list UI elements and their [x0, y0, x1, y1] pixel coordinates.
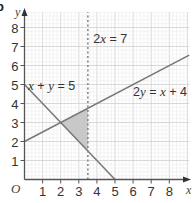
x-tick-label: 2 [57, 184, 64, 199]
line-x-y-5 [25, 85, 116, 180]
x-axis-label: x [185, 183, 192, 197]
question-label: b [0, 0, 4, 14]
y-tick-label: 5 [11, 78, 18, 93]
x-tick-label: 3 [75, 184, 82, 199]
x-tick-label: 5 [111, 184, 118, 199]
x-tick-label: 1 [39, 184, 46, 199]
coordinate-graph: 1234567812345678 x + y = 52y = x + 42x =… [0, 0, 194, 203]
x-tick-label: 4 [93, 184, 100, 199]
x-tick-label: 6 [129, 184, 136, 199]
y-tick-label: 6 [11, 59, 18, 74]
y-tick-label: 3 [11, 116, 18, 131]
y-tick-label: 4 [11, 97, 18, 112]
y-tick-label: 8 [11, 21, 18, 36]
equation-label: 2y = x + 4 [133, 84, 187, 99]
origin-label: O [11, 181, 21, 196]
y-tick-label: 1 [11, 154, 18, 169]
equation-labels: x + y = 52y = x + 42x = 7 [27, 31, 187, 99]
equation-label: 2x = 7 [93, 31, 127, 46]
y-axis-label: y [14, 5, 21, 19]
y-tick-label: 7 [11, 40, 18, 55]
x-tick-label: 8 [166, 184, 173, 199]
y-tick-label: 2 [11, 135, 18, 150]
x-tick-label: 7 [148, 184, 155, 199]
equation-label: x + y = 5 [27, 78, 75, 93]
